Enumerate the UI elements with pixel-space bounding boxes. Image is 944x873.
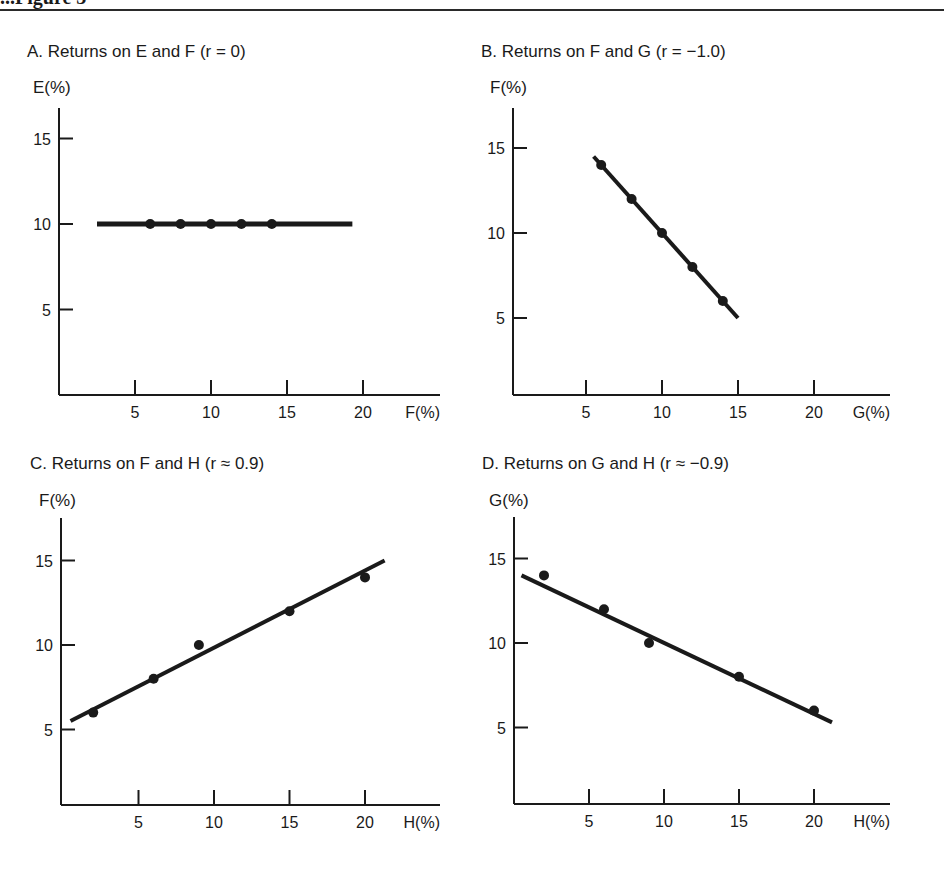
x-tick-label: 5 [582,404,591,421]
x-tick-label: 15 [729,404,747,421]
y-tick-label: 5 [42,302,51,319]
x-axis-label: F(%) [405,404,440,421]
chart-panel-d: D. Returns on G and H (r ≈ −0.9)G(%)5101… [482,454,890,830]
x-tick-label: 5 [131,404,140,421]
x-tick-label: 10 [205,814,223,831]
data-point [236,219,246,229]
y-axis-label: F(%) [490,78,527,97]
regression-line [594,157,738,319]
data-point [644,638,654,648]
x-tick-label: 15 [730,813,748,830]
y-tick-label: 15 [487,140,505,157]
x-tick-label: 15 [281,814,299,831]
data-point [539,570,549,580]
data-point [360,572,370,582]
x-tick-label: 5 [585,813,594,830]
y-tick-label: 15 [33,131,51,148]
x-tick-label: 5 [134,814,143,831]
data-point [657,228,667,238]
data-point [267,219,277,229]
data-point [285,606,295,616]
regression-line [71,561,385,722]
y-tick-label: 15 [488,551,506,568]
data-point [687,262,697,272]
x-tick-label: 10 [653,404,671,421]
x-tick-label: 10 [655,813,673,830]
x-axis-label: H(%) [404,814,440,831]
y-axis-label: G(%) [489,491,529,510]
data-point [734,672,744,682]
y-tick-label: 5 [497,720,506,737]
x-tick-label: 10 [202,404,220,421]
chart-title: A. Returns on E and F (r = 0) [27,42,246,61]
chart-panel-a: A. Returns on E and F (r = 0)E(%)5101551… [27,42,440,421]
x-tick-label: 15 [278,404,296,421]
y-tick-label: 5 [44,722,53,739]
y-axis-label: E(%) [33,78,71,97]
chart-panel-b: B. Returns on F and G (r = −1.0)F(%)5101… [481,42,890,421]
x-tick-label: 20 [354,404,372,421]
data-point [149,674,159,684]
data-point [194,640,204,650]
y-axis-label: F(%) [39,491,76,510]
y-tick-label: 15 [35,553,53,570]
y-tick-label: 10 [33,216,51,233]
chart-panel-c: C. Returns on F and H (r ≈ 0.9)F(%)51015… [30,454,440,831]
y-tick-label: 10 [35,637,53,654]
chart-title: D. Returns on G and H (r ≈ −0.9) [482,454,729,473]
data-point [176,219,186,229]
data-point [627,194,637,204]
data-point [596,160,606,170]
chart-title: B. Returns on F and G (r = −1.0) [481,42,726,61]
y-tick-label: 10 [488,635,506,652]
data-point [88,708,98,718]
data-point [206,219,216,229]
regression-line [522,575,833,722]
y-tick-label: 5 [496,310,505,327]
x-tick-label: 20 [805,813,823,830]
data-point [718,296,728,306]
x-axis-label: G(%) [853,404,890,421]
x-tick-label: 20 [805,404,823,421]
data-point [599,604,609,614]
chart-title: C. Returns on F and H (r ≈ 0.9) [30,454,264,473]
y-tick-label: 10 [487,225,505,242]
x-tick-label: 20 [356,814,374,831]
x-axis-label: H(%) [854,813,890,830]
data-point [145,219,155,229]
data-point [809,706,819,716]
correlation-charts-figure: A. Returns on E and F (r = 0)E(%)5101551… [0,0,944,873]
